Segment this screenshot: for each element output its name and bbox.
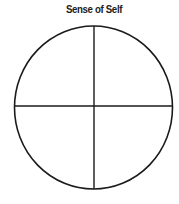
quadrant-circle-diagram	[0, 0, 179, 204]
